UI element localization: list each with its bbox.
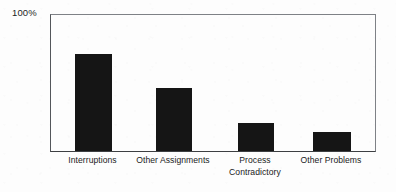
plot-area xyxy=(50,14,376,152)
bar xyxy=(238,123,274,151)
y-axis-max-label: 100% xyxy=(12,7,37,18)
bars-layer xyxy=(51,15,375,151)
category-label: Other Problems xyxy=(271,155,391,167)
bar xyxy=(75,54,112,151)
category-label-line: Contradictory xyxy=(195,167,315,179)
category-label-line: Other Problems xyxy=(271,155,391,167)
bar-chart-figure: 100% InterruptionsOther AssignmentsProce… xyxy=(0,0,396,192)
category-axis-labels: InterruptionsOther AssignmentsProcessCon… xyxy=(50,155,376,191)
bar xyxy=(313,132,351,151)
bar xyxy=(156,88,192,152)
